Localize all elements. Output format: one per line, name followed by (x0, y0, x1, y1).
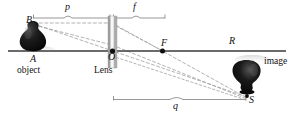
lens-label: Lens (94, 66, 112, 76)
point-label-R: R (229, 36, 235, 46)
point-F (160, 49, 165, 54)
dimension-bracket-f (114, 15, 166, 19)
object-label: object (17, 66, 40, 76)
object-vase (20, 21, 46, 51)
parallel-ray-refracted (112, 23, 247, 98)
point-label-O: O (108, 52, 115, 62)
dimension-label-p: p (65, 2, 70, 12)
point-label-S: S (249, 95, 254, 105)
point-label-B: B (26, 15, 32, 25)
dimension-bracket-q (114, 96, 247, 101)
image-label: image (264, 57, 287, 67)
point-label-F: F (161, 38, 167, 48)
dimension-label-f: f (133, 2, 136, 12)
point-label-A: A (30, 54, 36, 64)
dimension-bracket-p (34, 15, 111, 19)
object-highlight (24, 27, 31, 39)
focal-ray (34, 25, 247, 99)
ray-bundle (34, 23, 247, 100)
optics-ray-diagram (0, 0, 300, 119)
image-highlight (250, 63, 258, 76)
auxiliary-ray-2 (112, 56, 246, 100)
dimension-label-q: q (173, 101, 178, 111)
